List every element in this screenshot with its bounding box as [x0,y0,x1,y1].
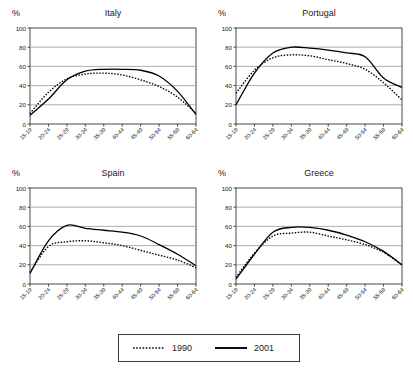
legend-label-2001: 2001 [254,343,274,353]
x-axis-tick-label: 25-29 [261,286,275,300]
y-axis-tick-label: 0 [23,121,27,128]
y-axis-tick-label: 40 [19,242,26,249]
chart-panel-italy: % Italy 02040608010015-1920-2425-2930-34… [4,8,204,160]
x-axis-tick-label: 40-44 [317,286,331,300]
x-axis-tick-label: 20-24 [243,286,257,300]
x-axis-tick-label: 35-39 [92,126,106,140]
y-axis-tick-label: 100 [222,185,233,192]
plot-frame [30,28,196,124]
y-axis-tick-label: 20 [19,101,26,108]
legend-swatch-solid-icon [215,343,247,353]
x-axis-tick-label: 55-59 [166,286,180,300]
chart-title-italy: Italy [4,8,204,18]
x-axis-tick-label: 60-64 [391,286,405,300]
x-axis-tick-label: 55-59 [166,126,180,140]
x-axis-tick-label: 30-34 [74,126,88,140]
chart-title-spain: Spain [4,168,204,178]
x-axis-tick-label: 15-19 [19,286,33,300]
series-line-2001 [236,227,402,279]
legend-entry-1990: 1990 [133,335,192,361]
series-line-1990 [236,55,402,100]
x-axis-tick-label: 25-29 [55,126,69,140]
y-axis-tick-label: 40 [225,242,232,249]
x-axis-tick-label: 20-24 [243,126,257,140]
plot-area-italy: 02040608010015-1920-2425-2930-3435-3940-… [4,20,204,160]
x-axis-tick-label: 40-44 [317,126,331,140]
chart-legend: 1990 2001 [118,334,300,362]
legend-entry-2001: 2001 [215,335,274,361]
x-axis-tick-label: 15-19 [225,286,239,300]
x-axis-tick-label: 45-49 [129,126,143,140]
x-axis-tick-label: 45-49 [335,286,349,300]
x-axis-tick-label: 60-64 [391,126,405,140]
x-axis-tick-label: 50-54 [354,126,368,140]
series-line-1990 [30,73,196,113]
x-axis-tick-label: 25-29 [55,286,69,300]
plot-area-portugal: 02040608010015-1920-2425-2930-3435-3940-… [210,20,410,160]
x-axis-tick-label: 45-49 [129,286,143,300]
y-axis-tick-label: 60 [19,63,26,70]
x-axis-tick-label: 15-19 [225,126,239,140]
x-axis-tick-label: 50-54 [148,286,162,300]
x-axis-tick-label: 60-64 [185,126,199,140]
y-axis-tick-label: 80 [19,44,26,51]
x-axis-tick-label: 30-34 [280,126,294,140]
y-axis-tick-label: 60 [225,63,232,70]
y-axis-tick-label: 20 [225,101,232,108]
x-axis-tick-label: 40-44 [111,126,125,140]
plot-area-spain: 02040608010015-1920-2425-2930-3435-3940-… [4,180,204,320]
x-axis-tick-label: 55-59 [372,286,386,300]
x-axis-tick-label: 35-39 [298,126,312,140]
x-axis-tick-label: 50-54 [354,286,368,300]
x-axis-tick-label: 55-59 [372,126,386,140]
x-axis-tick-label: 20-24 [37,286,51,300]
x-axis-tick-label: 20-24 [37,126,51,140]
truncated-top-caption [150,0,260,3]
y-axis-tick-label: 80 [225,44,232,51]
y-axis-tick-label: 100 [222,25,233,32]
legend-swatch-dotted-icon [133,343,165,353]
y-axis-tick-label: 100 [16,185,27,192]
y-axis-tick-label: 20 [19,261,26,268]
chart-panel-spain: % Spain 02040608010015-1920-2425-2930-34… [4,168,204,320]
plot-frame [236,28,402,124]
x-axis-tick-label: 30-34 [74,286,88,300]
y-axis-tick-label: 0 [229,281,233,288]
y-axis-tick-label: 60 [19,223,26,230]
x-axis-tick-label: 60-64 [185,286,199,300]
plot-area-greece: 02040608010015-1920-2425-2930-3435-3940-… [210,180,410,320]
legend-label-1990: 1990 [172,343,192,353]
x-axis-tick-label: 35-39 [92,286,106,300]
series-line-2001 [30,225,196,274]
chart-panel-greece: % Greece 02040608010015-1920-2425-2930-3… [210,168,410,320]
x-axis-tick-label: 15-19 [19,126,33,140]
x-axis-tick-label: 35-39 [298,286,312,300]
y-axis-tick-label: 0 [23,281,27,288]
chart-panel-portugal: % Portugal 02040608010015-1920-2425-2930… [210,8,410,160]
x-axis-tick-label: 40-44 [111,286,125,300]
y-axis-tick-label: 0 [229,121,233,128]
x-axis-tick-label: 45-49 [335,126,349,140]
x-axis-tick-label: 30-34 [280,286,294,300]
plot-frame [236,188,402,284]
chart-title-portugal: Portugal [210,8,410,18]
plot-frame [30,188,196,284]
chart-title-greece: Greece [210,168,410,178]
series-line-1990 [236,232,402,277]
y-axis-tick-label: 80 [19,204,26,211]
y-axis-tick-label: 80 [225,204,232,211]
y-axis-tick-label: 40 [225,82,232,89]
y-axis-tick-label: 20 [225,261,232,268]
y-axis-tick-label: 60 [225,223,232,230]
x-axis-tick-label: 25-29 [261,126,275,140]
y-axis-tick-label: 40 [19,82,26,89]
x-axis-tick-label: 50-54 [148,126,162,140]
series-line-2001 [236,47,402,105]
y-axis-tick-label: 100 [16,25,27,32]
